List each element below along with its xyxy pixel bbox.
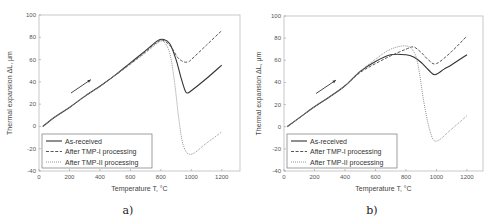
y-tick-label: 80 — [29, 34, 36, 40]
x-tick-label: 1000 — [430, 174, 444, 180]
panel-label: a) — [123, 204, 134, 217]
x-tick-label: 1000 — [185, 174, 199, 180]
legend-item-label: As-received — [310, 138, 347, 145]
figure-canvas: 020040060080010001200-40-20020406080100T… — [0, 0, 495, 224]
y-axis-label: Thermal expansion ΔL, μm — [6, 51, 14, 135]
series-line-1 — [287, 36, 467, 127]
series-line-0 — [287, 54, 467, 127]
series-line-1 — [43, 31, 222, 127]
y-tick-label: 0 — [278, 124, 282, 130]
chart-panel-b: 020040060080010001200-40-20020406080100T… — [255, 13, 483, 217]
x-tick-label: 800 — [156, 174, 167, 180]
y-tick-label: 100 — [271, 13, 282, 19]
legend-item-label: After TMP-I processing — [65, 148, 137, 156]
x-tick-label: 1200 — [460, 174, 474, 180]
x-axis-label: Temperature T, °C — [111, 185, 167, 193]
chart-panel-a: 020040060080010001200-40-20020406080100T… — [6, 12, 240, 217]
legend-item-label: After TMP-II processing — [65, 159, 139, 167]
x-tick-label: 200 — [64, 174, 75, 180]
y-tick-label: 40 — [29, 79, 36, 85]
heating-arrow-icon — [316, 80, 336, 93]
y-tick-label: -40 — [27, 168, 36, 174]
y-tick-label: 60 — [274, 57, 281, 63]
y-axis-label: Thermal expansion ΔL, μm — [255, 51, 263, 135]
y-tick-label: 20 — [29, 101, 36, 107]
x-tick-label: 400 — [95, 174, 106, 180]
legend-item-label: After TMP-I processing — [310, 148, 382, 156]
x-tick-label: 200 — [309, 174, 320, 180]
x-tick-label: 0 — [282, 174, 286, 180]
legend-item-label: After TMP-II processing — [310, 159, 384, 167]
x-tick-label: 800 — [401, 174, 412, 180]
legend-item-label: As-received — [65, 138, 102, 145]
x-axis-label: Temperature T, °C — [355, 185, 411, 193]
y-tick-label: 60 — [29, 57, 36, 63]
y-tick-label: 0 — [33, 123, 37, 129]
heating-arrow-icon — [71, 80, 91, 93]
x-tick-label: 0 — [37, 174, 41, 180]
y-tick-label: -40 — [272, 168, 281, 174]
x-tick-label: 1200 — [215, 174, 229, 180]
y-tick-label: 20 — [274, 102, 281, 108]
y-tick-label: 40 — [274, 79, 281, 85]
x-tick-label: 600 — [125, 174, 136, 180]
y-tick-label: 80 — [274, 35, 281, 41]
x-tick-label: 600 — [370, 174, 381, 180]
y-tick-label: -20 — [27, 146, 36, 152]
panel-label: b) — [366, 204, 377, 217]
x-tick-label: 400 — [340, 174, 351, 180]
y-tick-label: -20 — [272, 146, 281, 152]
series-line-0 — [43, 39, 222, 126]
y-tick-label: 100 — [26, 12, 37, 18]
